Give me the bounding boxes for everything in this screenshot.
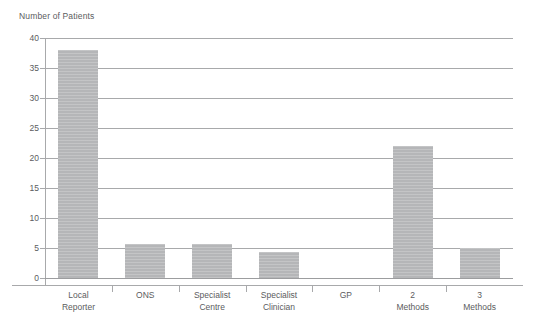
y-tick-label: 10: [30, 214, 39, 223]
x-axis-label-line: Specialist: [246, 290, 313, 302]
x-axis-label-line: Methods: [446, 302, 513, 314]
bar: [460, 248, 500, 278]
bar-slot: [179, 38, 246, 278]
x-axis-label: SpecialistClinician: [246, 287, 313, 313]
x-axis-labels: LocalReporterONSSpecialistCentreSpeciali…: [45, 287, 513, 313]
x-axis-label-line: Specialist: [179, 290, 246, 302]
x-axis-label: SpecialistCentre: [179, 287, 246, 313]
x-tick-mark: [312, 285, 313, 292]
x-tick-mark: [179, 285, 180, 292]
bar-slot: [45, 38, 112, 278]
y-tick-label: 0: [34, 274, 39, 283]
x-axis-label: GP: [312, 287, 379, 313]
x-axis-label: LocalReporter: [45, 287, 112, 313]
bar-slot: [379, 38, 446, 278]
x-tick-mark: [112, 285, 113, 292]
y-tick-label: 35: [30, 64, 39, 73]
bar: [125, 244, 165, 278]
x-tick-mark: [446, 285, 447, 292]
y-tick-label: 5: [34, 244, 39, 253]
x-axis-label: 3Methods: [446, 287, 513, 313]
y-tick-label: 30: [30, 94, 39, 103]
bar: [192, 244, 232, 278]
x-axis-label-line: 2: [379, 290, 446, 302]
y-axis-title: Number of Patients: [19, 11, 94, 21]
x-axis-label-line: Centre: [179, 302, 246, 314]
y-tick-mark: [40, 278, 45, 279]
y-tick-label: 25: [30, 124, 39, 133]
x-axis-label-line: Methods: [379, 302, 446, 314]
y-tick-label: 15: [30, 184, 39, 193]
bar-slot: [446, 38, 513, 278]
y-tick-label: 40: [30, 34, 39, 43]
x-axis-label-line: ONS: [112, 290, 179, 302]
x-axis-label-line: Reporter: [45, 302, 112, 314]
x-axis-label-line: GP: [312, 290, 379, 302]
bar-chart: Number of Patients 0510152025303540 Loca…: [0, 0, 536, 325]
x-axis-label-line: Clinician: [246, 302, 313, 314]
x-axis-label: ONS: [112, 287, 179, 313]
x-axis-label-line: 3: [446, 290, 513, 302]
bar-series: [45, 38, 513, 278]
x-tick-mark: [246, 285, 247, 292]
x-tick-mark: [379, 285, 380, 292]
plot-area: 0510152025303540: [45, 38, 513, 278]
bar: [393, 146, 433, 278]
y-tick-label: 20: [30, 154, 39, 163]
bar: [259, 252, 299, 278]
bar-slot: [112, 38, 179, 278]
x-axis-label-line: Local: [45, 290, 112, 302]
gridline: 0: [45, 278, 513, 279]
bar: [58, 50, 98, 278]
bar-slot: [312, 38, 379, 278]
bar-slot: [246, 38, 313, 278]
x-axis-label: 2Methods: [379, 287, 446, 313]
